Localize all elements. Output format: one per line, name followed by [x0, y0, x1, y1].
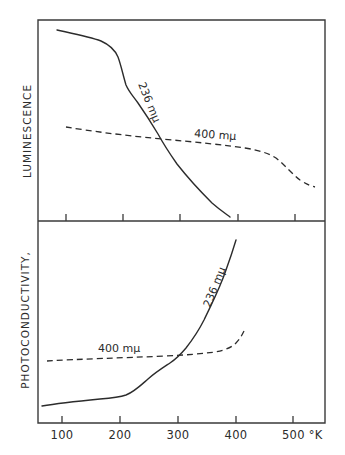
- top-y-axis-label: LUMINESCENCE: [21, 84, 33, 178]
- bottom-curve-236: [42, 240, 236, 406]
- x-tick-label-400: 400: [225, 428, 248, 442]
- x-tick-label-100: 100: [51, 428, 74, 442]
- x-tick-label-300: 300: [167, 428, 190, 442]
- x-tick-label-200: 200: [109, 428, 132, 442]
- bottom-label-236: 236 mμ: [201, 265, 229, 309]
- top-label-236: 236 mμ: [135, 80, 163, 124]
- figure: 100 200 300 400 500 °K LUMINESCENCE PHOT…: [0, 0, 345, 455]
- bottom-curve-400: [47, 331, 244, 361]
- top-label-400: 400 mμ: [194, 127, 237, 143]
- x-tick-labels: 100 200 300 400 500 °K: [51, 428, 323, 442]
- top-x-ticks: [66, 214, 295, 221]
- bottom-label-400: 400 mμ: [98, 342, 140, 355]
- top-curve-400: [66, 127, 315, 187]
- x-tick-label-500K: 500 °K: [282, 428, 323, 442]
- top-curve-236: [57, 30, 230, 217]
- bottom-y-axis-label: PHOTOCONDUCTIVITY,: [19, 251, 31, 389]
- bottom-x-ticks: [62, 416, 293, 423]
